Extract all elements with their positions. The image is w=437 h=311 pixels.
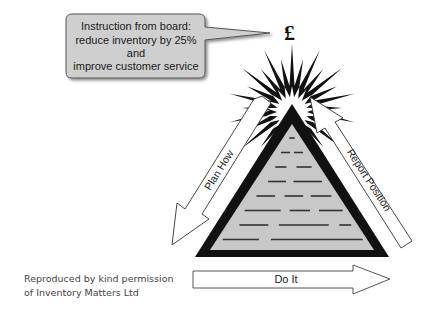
- do-it-label: Do It: [274, 273, 297, 285]
- diagram-svg: Plan How Report Position Instruction fro…: [0, 0, 437, 311]
- credit-line-1: Reproduced by kind permission: [24, 272, 174, 286]
- bubble-line-2: reduce inventory by 25%: [75, 34, 196, 46]
- bubble-line-3: and: [127, 47, 145, 59]
- diagram-canvas: Plan How Report Position Instruction fro…: [0, 0, 437, 311]
- credit-line-2: of Inventory Matters Ltd: [24, 286, 174, 300]
- do-it-arrow: Do It: [193, 265, 390, 294]
- credit-text: Reproduced by kind permission of Invento…: [24, 272, 174, 300]
- pound-icon: £: [284, 20, 295, 45]
- bubble-line-4: improve customer service: [73, 60, 198, 72]
- bubble-line-1: Instruction from board:: [81, 20, 191, 32]
